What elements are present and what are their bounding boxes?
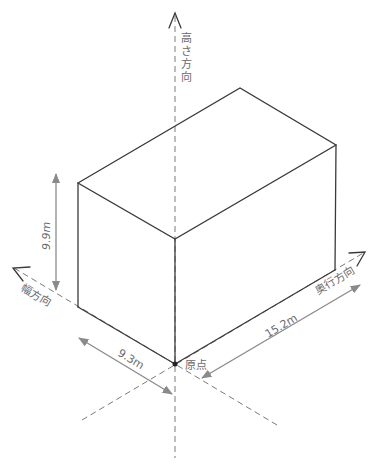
box-dimension-diagram: 高さ方向 幅方向 奥行方向: [0, 0, 381, 473]
width-axis-label: 幅方向: [18, 281, 53, 310]
box-bottom-right-edge: [175, 270, 335, 364]
width-dimension-label: 9.3m: [115, 346, 146, 372]
box-right-edge: [335, 145, 336, 270]
width-dimension: 9.3m: [79, 338, 172, 394]
origin-label: 原点: [185, 359, 207, 372]
height-dimension-label: 9.9m: [40, 222, 53, 250]
height-axis-label: 高さ方向: [181, 31, 192, 84]
arrow-upright-icon: [349, 252, 365, 266]
origin-point: [173, 362, 178, 367]
height-dimension: 9.9m: [40, 174, 56, 290]
depth-dimension: 15.2m: [202, 285, 360, 378]
depth-dimension-label: 15.2m: [263, 311, 300, 340]
box-top-face: [78, 88, 336, 239]
